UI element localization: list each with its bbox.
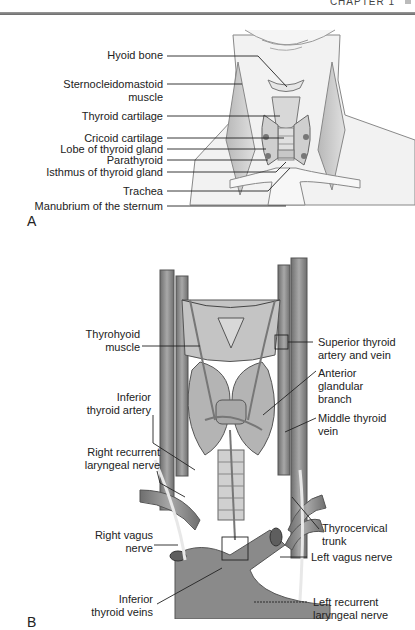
label-middle-thyroid-vein: Middle thyroid vein: [318, 412, 386, 438]
label-thyrocervical: Thyrocervical trunk: [322, 522, 387, 548]
label-superior-thyroid: Superior thyroid artery and vein: [318, 336, 396, 362]
label-right-vagus: Right vagus nerve: [95, 529, 153, 555]
label-isthmus: Isthmus of thyroid gland: [46, 166, 163, 179]
label-left-recurrent: Left recurrent laryngeal nerve: [313, 596, 388, 622]
label-trachea: Trachea: [123, 185, 163, 198]
label-inferior-thyroid-veins: Inferior thyroid veins: [91, 593, 153, 619]
label-hyoid-bone: Hyoid bone: [107, 49, 163, 62]
panel-letter-b: B: [27, 614, 36, 630]
label-sternocleidomastoid: Sternocleidomastoid muscle: [63, 78, 163, 104]
thyroid-dissection-panel-b: [140, 258, 330, 619]
label-thyroid-cartilage: Thyroid cartilage: [82, 110, 163, 123]
label-right-recurrent: Right recurrent laryngeal nerve: [85, 446, 160, 472]
panel-letter-a: A: [27, 213, 36, 229]
label-thyrohyoid: Thyrohyoid muscle: [86, 328, 140, 354]
label-manubrium: Manubrium of the sternum: [35, 200, 163, 213]
label-left-vagus: Left vagus nerve: [311, 551, 392, 564]
label-anterior-glandular: Anterior glandular branch: [318, 367, 363, 406]
label-inferior-thyroid-artery: Inferior thyroid artery: [87, 391, 151, 417]
